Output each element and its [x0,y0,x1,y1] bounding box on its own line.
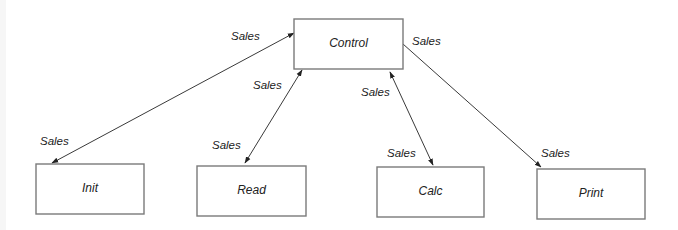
structure-chart: Control Init Read Calc Print Sales Sales… [0,0,678,230]
node-init-label: Init [82,181,99,195]
edge-label-control-calc-top: Sales [361,86,390,98]
node-calc-label: Calc [418,184,442,198]
node-print-label: Print [579,186,604,200]
node-init: Init [36,164,144,214]
node-print: Print [537,169,645,219]
node-read: Read [197,166,306,216]
node-control: Control [294,19,403,69]
edge-label-control-read-top: Sales [253,79,282,91]
edge-label-control-init-bottom: Sales [40,135,69,147]
edge-control-print [403,44,541,167]
edge-label-control-init-top: Sales [231,30,260,42]
edge-control-init [52,33,294,163]
node-read-label: Read [237,183,266,197]
edge-label-control-calc-bottom: Sales [387,147,416,159]
edge-label-control-print-bottom: Sales [541,147,570,159]
edge-label-control-read-bottom: Sales [212,139,241,151]
edge-label-control-print-top: Sales [412,35,441,47]
node-control-label: Control [329,36,368,50]
node-calc: Calc [377,167,484,217]
